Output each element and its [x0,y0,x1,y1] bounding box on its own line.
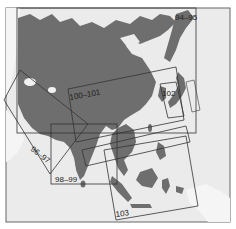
label-102: 102 [162,89,176,98]
label-103: 103 [115,208,130,219]
label-98-99: 98–99 [55,175,78,184]
java-land [130,204,152,208]
caspian-sea [24,78,36,86]
atlas-index-map: 94–95 100–101 102 96–97 98–99 103 [0,0,236,229]
label-94-95: 94–95 [175,13,198,22]
taiwan-land [148,124,152,132]
aral-sea [48,87,56,93]
